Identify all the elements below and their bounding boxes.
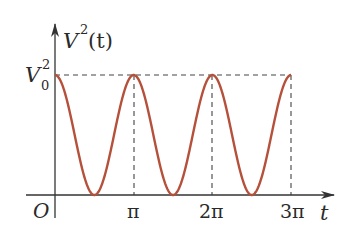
svg-text:0: 0 (41, 78, 49, 93)
origin-label: O (33, 199, 49, 223)
y-axis-label: V 2 (t) (63, 22, 113, 53)
reference-lines (55, 75, 291, 195)
svg-text:2: 2 (42, 57, 50, 72)
v-squared-curve (55, 75, 291, 195)
x-axis-label: t (320, 201, 329, 225)
svg-text:V: V (63, 29, 80, 53)
tick-label-2pi: 2π (199, 200, 224, 222)
svg-text:V: V (25, 63, 42, 87)
tick-label-pi: π (127, 200, 140, 222)
tick-label-3pi: 3π (280, 200, 305, 222)
y-axis-arg: (t) (88, 29, 113, 53)
v0-squared-tick-label: V 2 0 (25, 57, 50, 93)
chart-canvas: V 2 (t) V 2 0 O π 2π 3π t (0, 0, 357, 234)
